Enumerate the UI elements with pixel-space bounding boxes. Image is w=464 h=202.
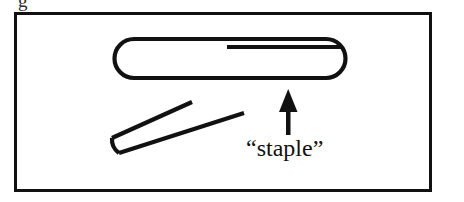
arrow-shaft xyxy=(286,108,291,135)
figure-drawing xyxy=(0,0,464,202)
staple-label: “staple” xyxy=(246,136,323,160)
figure-container: g “staple” xyxy=(0,0,464,202)
